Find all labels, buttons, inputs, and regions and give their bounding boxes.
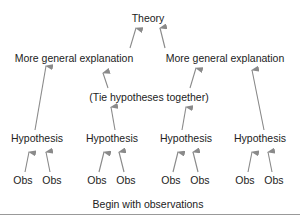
- arrow-icon: [252, 70, 264, 130]
- arrow-icon: [160, 28, 165, 48]
- obs-label: Obs: [161, 174, 180, 186]
- tie-hypotheses-label: (Tie hypotheses together): [89, 91, 208, 103]
- divider: [0, 214, 300, 215]
- arrow-icon: [46, 152, 50, 172]
- arrow-icon: [99, 152, 104, 172]
- obs-label: Obs: [235, 174, 254, 186]
- arrow-icon: [190, 68, 196, 88]
- arrow-icon: [119, 152, 124, 172]
- caption: Begin with observations: [93, 198, 204, 210]
- arrows-layer: [0, 0, 300, 219]
- hypothesis-label: Hypothesis: [86, 132, 138, 144]
- theory-label: Theory: [132, 12, 165, 24]
- hypothesis-label: Hypothesis: [234, 132, 286, 144]
- hypothesis-label: Hypothesis: [11, 132, 63, 144]
- arrow-icon: [193, 152, 198, 172]
- obs-label: Obs: [264, 174, 283, 186]
- obs-label: Obs: [13, 174, 32, 186]
- arrow-icon: [25, 152, 29, 172]
- arrow-icon: [173, 152, 178, 172]
- hypothesis-label: Hypothesis: [160, 132, 212, 144]
- obs-label: Obs: [190, 174, 209, 186]
- obs-label: Obs: [87, 174, 106, 186]
- arrow-icon: [130, 28, 136, 48]
- explanation-label-right: More general explanation: [166, 52, 285, 64]
- arrow-icon: [182, 107, 186, 130]
- explanation-label-left: More general explanation: [15, 52, 134, 64]
- arrow-icon: [111, 107, 115, 130]
- arrow-icon: [35, 66, 46, 130]
- obs-label: Obs: [42, 174, 61, 186]
- arrow-icon: [248, 152, 252, 172]
- obs-label: Obs: [116, 174, 135, 186]
- arrow-icon: [103, 73, 108, 88]
- arrow-icon: [268, 152, 272, 172]
